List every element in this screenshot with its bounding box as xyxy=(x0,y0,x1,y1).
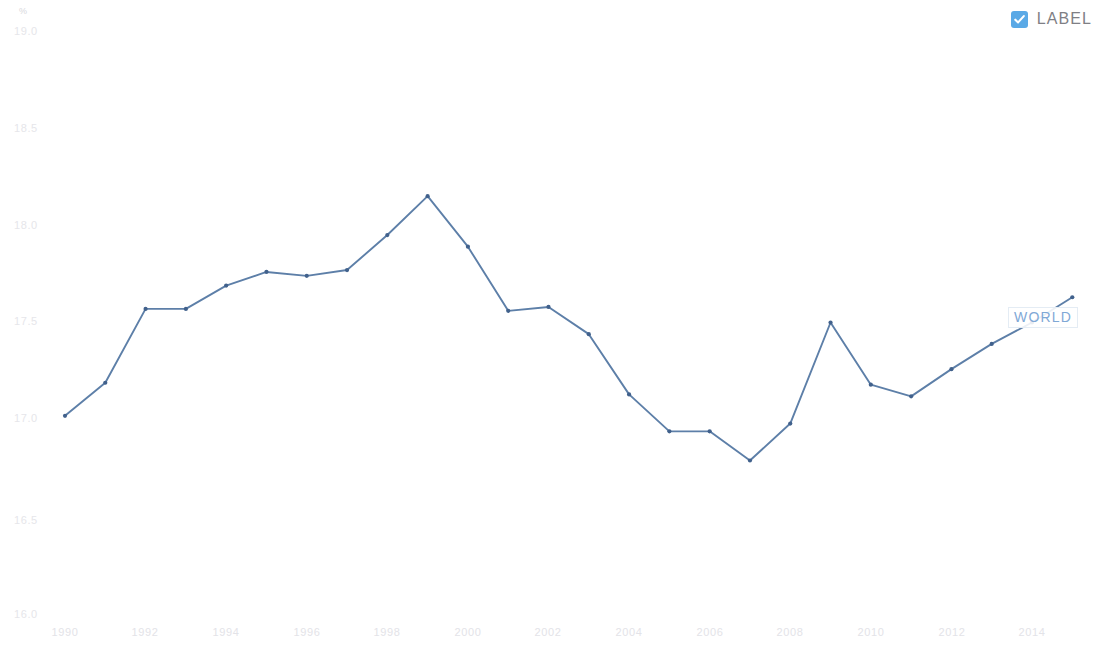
data-point xyxy=(1070,295,1074,299)
data-point xyxy=(869,383,873,387)
data-point xyxy=(224,283,228,287)
series-line-world xyxy=(65,196,1072,460)
data-point xyxy=(788,421,792,425)
data-point xyxy=(345,268,349,272)
data-point xyxy=(264,270,268,274)
data-point xyxy=(828,320,832,324)
plot-area xyxy=(0,0,1104,646)
data-point xyxy=(143,307,147,311)
data-point xyxy=(385,233,389,237)
data-point xyxy=(587,332,591,336)
data-point xyxy=(506,309,510,313)
data-point xyxy=(305,274,309,278)
data-point xyxy=(184,307,188,311)
data-point xyxy=(426,194,430,198)
data-point xyxy=(990,342,994,346)
data-point xyxy=(708,429,712,433)
data-point xyxy=(667,429,671,433)
data-point xyxy=(103,381,107,385)
chart-page: LABEL % 19.0 18.5 18.0 17.5 17.0 16.5 16… xyxy=(0,0,1104,646)
data-point xyxy=(909,394,913,398)
series-markers-world xyxy=(63,194,1074,463)
data-point xyxy=(546,305,550,309)
data-point xyxy=(748,458,752,462)
data-point xyxy=(63,414,67,418)
data-point xyxy=(627,392,631,396)
line-chart-svg xyxy=(0,0,1104,646)
series-annotation-world: WORLD xyxy=(1008,307,1078,328)
data-point xyxy=(466,245,470,249)
data-point xyxy=(949,367,953,371)
